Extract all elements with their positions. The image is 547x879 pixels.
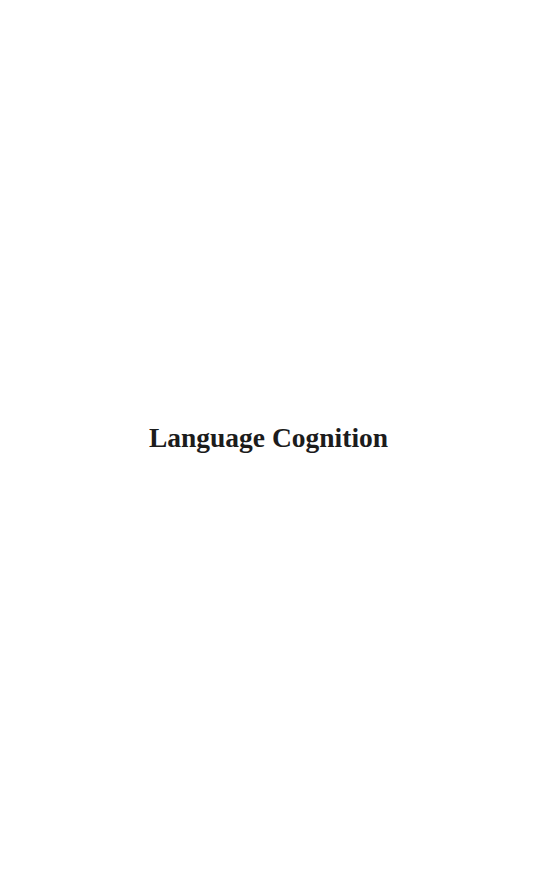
page-title: Language Cognition: [0, 421, 537, 455]
document-page: Language Cognition: [0, 0, 547, 879]
